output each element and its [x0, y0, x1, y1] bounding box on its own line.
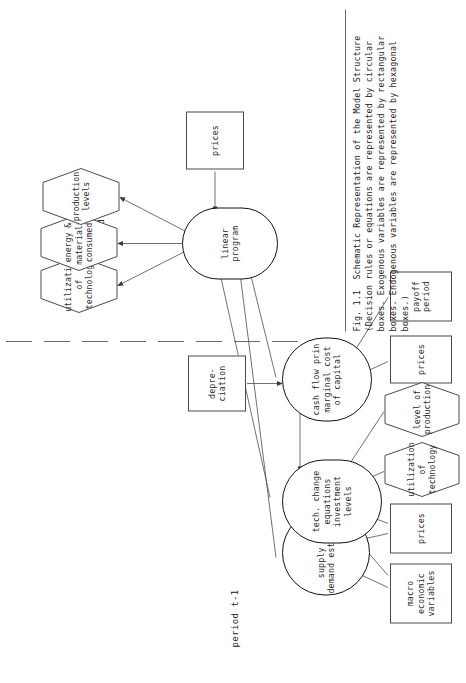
node-production-levels[interactable]: production levels	[42, 167, 120, 225]
node-utilization-of-technology-in[interactable]: utilization of technology	[384, 441, 460, 497]
caption-line-2: (Decision rules or equations are represe…	[364, 9, 376, 331]
node-tech-change[interactable]: tech. change equations investment levels	[282, 459, 382, 543]
caption-line-5: boxes.)	[400, 9, 412, 331]
node-level-of-production[interactable]: level of production	[384, 381, 460, 437]
caption-line-1: Fig. 1.1 Schematic Representation of the…	[352, 9, 364, 331]
node-prices-t1-b[interactable]: prices	[390, 335, 452, 383]
node-cash-flow[interactable]: cash flow prin marginal cost of capital	[282, 337, 372, 421]
node-label: production levels	[42, 167, 120, 225]
node-label: utilization of technology	[384, 441, 460, 497]
node-prices-t[interactable]: prices	[186, 111, 244, 169]
caption-rule	[345, 9, 346, 331]
node-linear-program[interactable]: linear program	[182, 207, 278, 279]
figure-caption: Fig. 1.1 Schematic Representation of the…	[352, 9, 412, 331]
node-prices-t1-a[interactable]: prices	[390, 503, 452, 553]
node-macro-economic-variables[interactable]: macro economic variables	[390, 563, 452, 623]
node-label: level of production	[384, 381, 460, 437]
caption-line-3: boxes. Exogenous variables are represent…	[376, 9, 388, 331]
period-label-left: period t-1	[230, 589, 240, 647]
node-depreciation[interactable]: depre- ciation	[188, 355, 246, 411]
caption-line-4: boxes. Endogenous variables are represen…	[388, 9, 400, 331]
figure-sheet: period t-1 period t supply and demand es…	[0, 0, 466, 683]
scanned-figure-page: 15	[0, 0, 466, 683]
rotated-page-content: period t-1 period t supply and demand es…	[0, 0, 466, 683]
